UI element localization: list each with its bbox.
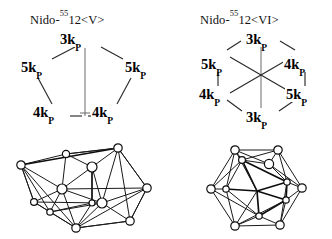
- pentagon-node-upper-right-sub: P: [140, 71, 146, 81]
- pentagon-node-upper-left-sub: P: [36, 71, 42, 81]
- polyhedron-nido-vi: [202, 142, 312, 236]
- pentagon-node-lower-left: 4kP: [32, 105, 55, 120]
- hexagon-node-bottom-value: 3k: [246, 109, 261, 125]
- hexagon-node-top: 3kP: [245, 32, 268, 47]
- hexagon-node-lower-left-sub: P: [214, 98, 220, 108]
- polyhedron-nido-v: [14, 140, 164, 236]
- edge-upper-right-lower-right: [117, 78, 131, 104]
- hexagon-node-upper-right: 4kP: [283, 57, 306, 72]
- polyhedron-nido-v-edges: [21, 148, 147, 228]
- edge-apex-upper-right: [101, 47, 123, 59]
- hexagon-node-lower-right-value: 5k: [286, 86, 301, 102]
- panel-nido-v: Nido-5512<V> 3kP 5kP 5kP 4kP 4kP: [0, 0, 175, 239]
- pentagon-node-upper-right-value: 5k: [125, 59, 140, 75]
- pentagon-node-lower-right-value: 4k: [92, 104, 107, 120]
- edge-apex-upper-left: [52, 47, 75, 59]
- hexagon-node-lower-right: 5kP: [285, 87, 308, 102]
- hexagon-node-bottom-sub: P: [261, 121, 267, 131]
- hexagon-node-upper-left-value: 5k: [201, 56, 216, 72]
- pentagon-node-upper-left-value: 5k: [21, 59, 36, 75]
- hexagon-node-upper-left: 5kP: [200, 57, 223, 72]
- hexagon-node-upper-right-value: 4k: [284, 56, 299, 72]
- figure-canvas: Nido-5512<V> 3kP 5kP 5kP 4kP 4kP: [0, 0, 332, 239]
- pentagon-node-lower-right-sub: P: [107, 116, 113, 126]
- pentagon-node-apex: 3kP: [59, 32, 82, 47]
- hexagon-node-top-value: 3k: [246, 31, 261, 47]
- pentagon-node-lower-left-value: 4k: [33, 104, 48, 120]
- pentagon-node-lower-right: 4kP: [91, 105, 114, 120]
- pentagon-node-apex-value: 3k: [60, 31, 75, 47]
- hexagon-node-lower-left: 4kP: [198, 87, 221, 102]
- edge-top-upper-left: [227, 41, 241, 50]
- edge-lower-left-bottom: [227, 100, 242, 111]
- edge-top-upper-right: [280, 41, 295, 50]
- pentagon-node-upper-left: 5kP: [20, 60, 43, 75]
- edge-upper-left-lower-left: [38, 78, 52, 104]
- pentagon-node-upper-right: 5kP: [124, 60, 147, 75]
- hexagon-node-upper-left-sub: P: [216, 68, 222, 78]
- hexagon-node-bottom: 3kP: [245, 110, 268, 125]
- hexagon-node-lower-left-value: 4k: [199, 86, 214, 102]
- panel-nido-vi: Nido-5512<VI> 3kP 5kP 4kP 4kP 5kP 3kP: [175, 0, 332, 239]
- hexagon-node-upper-right-sub: P: [299, 68, 305, 78]
- pentagon-node-lower-left-sub: P: [48, 116, 54, 126]
- hexagon-node-top-sub: P: [261, 43, 267, 53]
- pentagon-node-apex-sub: P: [75, 43, 81, 53]
- hexagon-node-lower-right-sub: P: [301, 98, 307, 108]
